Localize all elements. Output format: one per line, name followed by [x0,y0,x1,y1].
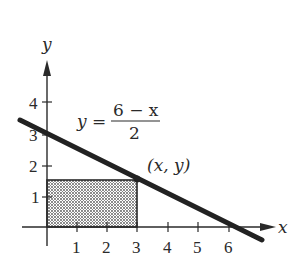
equation-denominator: 2 [129,123,140,143]
y-tick-label-3: 3 [29,126,38,145]
x-tick-label-5: 5 [193,238,202,257]
y-tick-label-2: 2 [29,157,38,176]
x-axis-arrow-icon [260,223,276,231]
x-tick-label-2: 2 [102,238,111,257]
shaded-rectangle [47,180,137,227]
x-axis-label: x [278,217,288,237]
point-label: (x, y) [147,155,190,175]
y-axis-arrow-icon [43,60,51,76]
y-axis-label: y [41,34,52,54]
x-tick-label-4: 4 [163,238,172,257]
y-tick-label-4: 4 [29,94,38,113]
x-tick-label-3: 3 [132,238,141,257]
equation-label: y = 6 − x 2 [76,100,160,143]
equation-numerator: 6 − x [113,100,159,120]
x-tick-label-6: 6 [224,238,233,257]
y-tick-label-1: 1 [31,188,40,207]
diagram-canvas: y x 4 3 2 1 1 2 3 4 5 6 y = 6 − x 2 (x, … [0,0,297,272]
point-marker [134,176,141,183]
equation-lhs: y = [76,111,106,131]
x-tick-label-1: 1 [72,238,81,257]
